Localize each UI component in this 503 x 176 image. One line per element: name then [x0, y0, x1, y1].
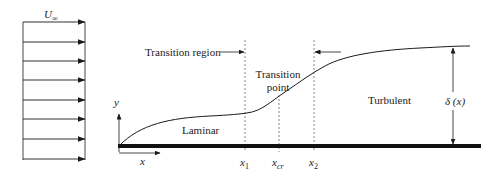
thickness-label: δ (x) [445, 95, 465, 108]
y-axis-label: y [113, 96, 119, 108]
freestream-velocity-profile: U∞ [23, 8, 85, 160]
turbulent-label: Turbulent [368, 94, 411, 106]
transition-point-label-line2: point [267, 81, 290, 93]
boundary-layer-diagram: U∞ y x Transit [0, 0, 503, 176]
thickness-indicator: δ (x) [445, 48, 465, 144]
transition-region-label: Transition region [145, 46, 221, 58]
x2-label: x2 [308, 156, 318, 171]
laminar-label: Laminar [182, 124, 220, 136]
x1-label: x1 [239, 156, 249, 171]
freestream-velocity-label: U∞ [44, 8, 58, 23]
x-axis-label: x [139, 155, 145, 167]
boundary-layer-edge-curve [119, 46, 470, 146]
transition-point-label-line1: Transition [256, 68, 301, 80]
coordinate-axes: y x [113, 96, 160, 167]
xcr-label: xcr [271, 156, 284, 171]
